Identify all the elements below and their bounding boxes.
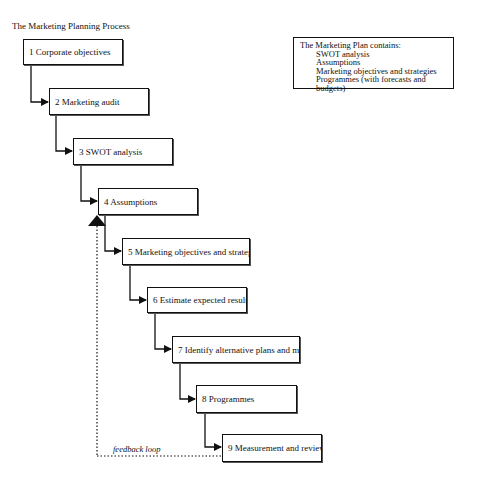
plan-item: Programmes (with forecasts and budgets) [300, 75, 447, 92]
step-8-box: 8 Programmes [196, 385, 297, 413]
step-5-box: 5 Marketing objectives and strategies [122, 238, 250, 265]
step-label: 8 Programmes [202, 394, 254, 404]
step-label: 4 Assumptions [104, 197, 157, 207]
step-3-box: 3 SWOT analysis [73, 138, 173, 165]
step-2-box: 2 Marketing audit [49, 88, 149, 115]
step-label: 6 Estimate expected results [153, 295, 247, 305]
step-4-box: 4 Assumptions [98, 188, 198, 215]
step-label: 3 SWOT analysis [79, 147, 142, 157]
step-7-box: 7 Identify alternative plans and mixes [172, 336, 300, 363]
step-label: 9 Measurement and review [228, 443, 322, 453]
step-label: 2 Marketing audit [55, 97, 120, 107]
step-label: 5 Marketing objectives and strategies [128, 247, 250, 257]
feedback-loop-label: feedback loop [113, 444, 160, 454]
step-1-box: 1 Corporate objectives [23, 39, 123, 65]
step-6-box: 6 Estimate expected results [147, 287, 247, 313]
step-label: 7 Identify alternative plans and mixes [178, 345, 300, 355]
step-label: 1 Corporate objectives [29, 47, 110, 57]
marketing-plan-box: The Marketing Plan contains: SWOT analys… [293, 37, 454, 89]
step-9-box: 9 Measurement and review [222, 434, 322, 462]
